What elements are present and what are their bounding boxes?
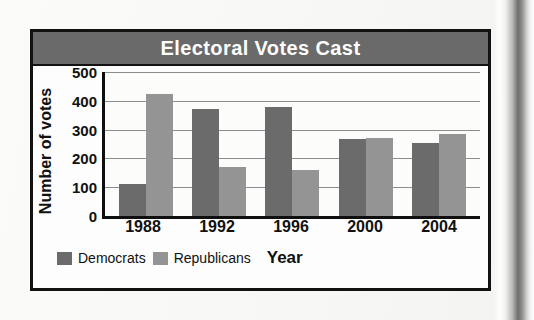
x-tick-label: 1996 bbox=[263, 218, 319, 236]
y-tick-label: 0 bbox=[89, 209, 97, 224]
legend-swatch-republicans bbox=[153, 252, 168, 265]
chart-title-bar: Electoral Votes Cast bbox=[33, 32, 488, 66]
x-tick-label: 1988 bbox=[115, 218, 171, 236]
bar-group-2000 bbox=[339, 72, 393, 216]
chart-figure: Electoral Votes Cast Number of votes 010… bbox=[30, 29, 491, 291]
x-tick-label: 1992 bbox=[189, 218, 245, 236]
bar-republicans-1996 bbox=[292, 170, 319, 216]
bar-republicans-1992 bbox=[219, 167, 246, 216]
bar-groups bbox=[105, 72, 480, 216]
legend-label-republicans: Republicans bbox=[174, 250, 251, 266]
y-axis-label-text: Number of votes bbox=[37, 88, 55, 214]
bar-democrats-1996 bbox=[265, 107, 292, 216]
y-tick-label: 400 bbox=[72, 93, 97, 108]
bar-republicans-1988 bbox=[146, 94, 173, 216]
bar-republicans-2004 bbox=[439, 134, 466, 216]
bar-democrats-2004 bbox=[412, 143, 439, 216]
y-tick-label: 100 bbox=[72, 180, 97, 195]
bar-group-1996 bbox=[265, 72, 319, 216]
page-edge-shadow bbox=[494, 0, 534, 320]
bar-group-1992 bbox=[192, 72, 246, 216]
y-tick-label: 200 bbox=[72, 151, 97, 166]
x-axis-tick-labels: 19881992199620002004 bbox=[102, 218, 480, 242]
chart-title: Electoral Votes Cast bbox=[161, 37, 361, 60]
bar-democrats-1988 bbox=[119, 184, 146, 216]
legend-label-democrats: Democrats bbox=[78, 250, 146, 266]
plot-area bbox=[102, 72, 480, 219]
bar-republicans-2000 bbox=[366, 138, 393, 216]
chart-body: Number of votes 0100200300400500 1988199… bbox=[33, 66, 488, 290]
y-tick-label: 300 bbox=[72, 122, 97, 137]
x-axis-label: Year bbox=[267, 248, 303, 268]
legend-swatch-democrats bbox=[57, 252, 72, 265]
bar-group-1988 bbox=[119, 72, 173, 216]
bar-democrats-1992 bbox=[192, 109, 219, 216]
legend-item-republicans: Republicans bbox=[153, 250, 251, 266]
y-tick-label: 500 bbox=[72, 65, 97, 80]
legend-item-democrats: Democrats bbox=[57, 250, 146, 266]
y-axis-label: Number of votes bbox=[35, 76, 57, 226]
y-axis-tick-labels: 0100200300400500 bbox=[57, 72, 99, 216]
bar-group-2004 bbox=[412, 72, 466, 216]
chart-legend: Democrats Republicans Year bbox=[57, 248, 303, 268]
bar-democrats-2000 bbox=[339, 139, 366, 216]
x-tick-label: 2004 bbox=[411, 218, 467, 236]
x-tick-label: 2000 bbox=[337, 218, 393, 236]
